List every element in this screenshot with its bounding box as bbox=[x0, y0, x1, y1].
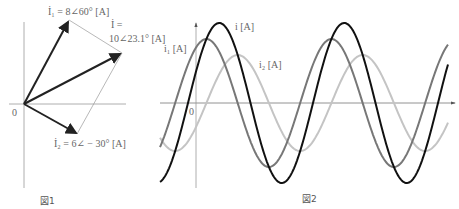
phasor-I-label-line1: İ = bbox=[111, 19, 123, 30]
figure1-caption: 図1 bbox=[40, 196, 55, 206]
waveform-i-label: i [A] bbox=[235, 21, 254, 32]
phasor-I-label-line2: 10∠23.1° [A] bbox=[109, 33, 165, 44]
phasor-I2-label: İ₂ = 6∠ − 30° [A] bbox=[54, 138, 126, 149]
waveform-i1-label: i₁ [A] bbox=[164, 43, 187, 54]
figure2-waveforms: 0 i [A] i₁ [A] i₂ [A] 図2 bbox=[160, 21, 455, 204]
figure2-caption: 図2 bbox=[302, 194, 317, 204]
waveform-i2-label: i₂ [A] bbox=[259, 59, 282, 70]
fig1-origin-label: 0 bbox=[12, 107, 17, 118]
figure1-phasor-diagram: 0 İ₁ = 8∠60° [A] İ = 10∠23.1° [A] İ₂ = 6… bbox=[9, 6, 165, 206]
phasor-I2-arrow bbox=[24, 104, 76, 133]
diagram-canvas: 0 İ₁ = 8∠60° [A] İ = 10∠23.1° [A] İ₂ = 6… bbox=[0, 0, 459, 209]
phasor-I1-label: İ₁ = 8∠60° [A] bbox=[48, 6, 109, 17]
fig2-origin-label: 0 bbox=[189, 106, 194, 117]
